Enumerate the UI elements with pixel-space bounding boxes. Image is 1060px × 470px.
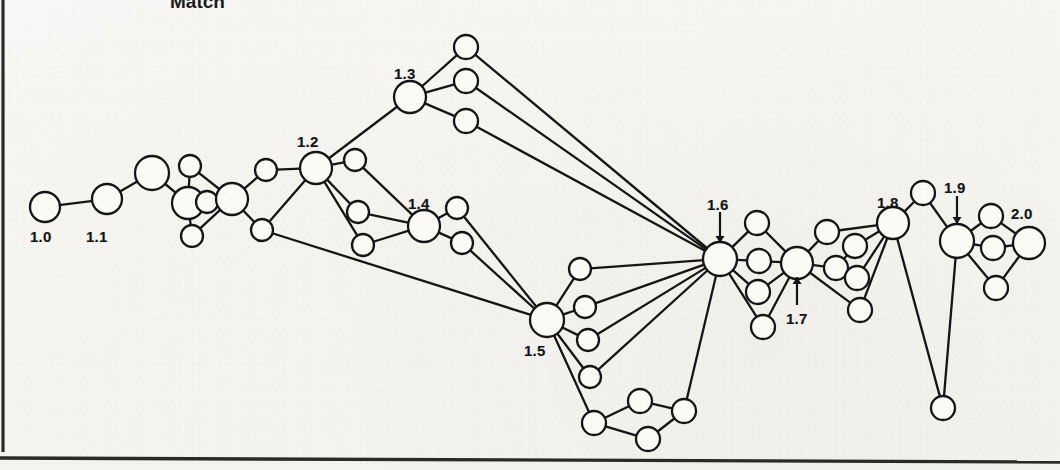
node-ac[interactable] [815, 220, 839, 244]
label-2-0: 2.0 [1011, 205, 1032, 222]
graph-edge [657, 418, 676, 432]
node-ai[interactable] [979, 204, 1003, 228]
node-1-4[interactable] [408, 210, 440, 242]
node-t[interactable] [579, 366, 601, 388]
node-1-0[interactable] [30, 192, 60, 222]
node-o[interactable] [446, 197, 468, 219]
node-g[interactable] [255, 159, 277, 181]
node-1-1[interactable] [92, 184, 122, 214]
diagram-page: Match 1.01.11.21.31.41.51.61.71.81.92.0 [0, 0, 1060, 470]
graph-edge [475, 87, 707, 250]
node-r[interactable] [574, 296, 596, 318]
node-af[interactable] [845, 266, 869, 290]
graph-edge [421, 54, 458, 87]
node-k[interactable] [352, 234, 374, 256]
label-1-4: 1.4 [408, 195, 429, 212]
node-aa[interactable] [746, 280, 770, 304]
horizontal-rule-bottom [0, 458, 1060, 462]
node-layer [30, 35, 1045, 451]
label-arrow-1-9 [953, 196, 962, 224]
node-q[interactable] [569, 258, 591, 280]
graph-edge [767, 272, 785, 285]
node-al[interactable] [931, 396, 955, 420]
label-1-6: 1.6 [707, 196, 728, 213]
node-x[interactable] [672, 399, 696, 423]
node-c[interactable] [179, 155, 201, 177]
node-p[interactable] [451, 232, 473, 254]
node-f[interactable] [216, 183, 248, 215]
node-1-8[interactable] [877, 207, 909, 239]
graph-edge [463, 216, 537, 308]
graph-edge [424, 103, 456, 117]
graph-edge [590, 260, 704, 268]
graph-edge [864, 231, 880, 241]
label-arrow-1-7 [793, 277, 802, 305]
node-1-7[interactable] [781, 247, 813, 279]
label-1-3: 1.3 [394, 65, 415, 82]
node-s[interactable] [577, 329, 599, 351]
node-d[interactable] [196, 191, 218, 213]
graph-edge [651, 403, 674, 408]
label-1-7: 1.7 [786, 310, 807, 327]
graph-edge [1000, 222, 1017, 234]
node-i[interactable] [344, 149, 366, 171]
node-1-6[interactable] [703, 242, 737, 276]
graph-edge [594, 264, 705, 303]
node-j[interactable] [347, 201, 369, 223]
graph-edge [243, 176, 258, 189]
graph-edge [276, 169, 301, 170]
node-n[interactable] [454, 109, 478, 133]
node-u[interactable] [582, 411, 606, 435]
node-1-3[interactable] [394, 81, 426, 113]
graph-edge [438, 232, 453, 239]
node-e[interactable] [181, 225, 203, 247]
graph-edge [605, 426, 638, 436]
arrow-head-icon [953, 217, 962, 224]
graph-edge [897, 237, 940, 397]
node-w[interactable] [636, 427, 660, 451]
graph-edge [970, 223, 982, 232]
graph-edge [362, 167, 413, 216]
node-1-2[interactable] [300, 152, 332, 184]
graph-edge [424, 84, 455, 93]
graph-edge [604, 406, 630, 419]
graph-edge [368, 214, 410, 223]
graph-edge [731, 231, 749, 248]
node-2-0[interactable] [1013, 227, 1045, 259]
graph-edge [687, 275, 717, 401]
node-a[interactable] [135, 156, 169, 190]
label-1-9: 1.9 [944, 179, 965, 196]
node-ag[interactable] [848, 298, 872, 322]
graph-edge [597, 267, 707, 334]
node-ah[interactable] [911, 181, 935, 205]
node-y[interactable] [745, 211, 769, 235]
node-1-5[interactable] [530, 303, 564, 337]
node-ae[interactable] [843, 234, 867, 258]
node-m[interactable] [454, 69, 478, 93]
node-l[interactable] [454, 35, 478, 59]
label-arrow-1-6 [716, 212, 725, 243]
graph-edge [476, 126, 706, 251]
label-1-8: 1.8 [877, 194, 898, 211]
graph-edge [838, 225, 878, 230]
graph-edge [597, 270, 708, 371]
graph-edge [807, 240, 819, 252]
node-v[interactable] [628, 389, 652, 413]
graph-edge [944, 257, 956, 397]
node-ak[interactable] [984, 276, 1008, 300]
label-1-1: 1.1 [86, 228, 107, 245]
node-z[interactable] [747, 249, 771, 273]
label-1-2: 1.2 [297, 133, 318, 150]
graph-edge [474, 54, 707, 249]
node-ab[interactable] [751, 315, 775, 339]
graph-edge [556, 277, 575, 306]
graph-edge [269, 179, 307, 222]
graph-edge [59, 201, 93, 205]
node-1-9[interactable] [940, 224, 974, 258]
graph-edge [198, 172, 220, 190]
label-1-5: 1.5 [524, 342, 545, 359]
node-aj[interactable] [981, 236, 1005, 260]
label-1-0: 1.0 [30, 228, 51, 245]
graph-edge [331, 162, 346, 165]
node-h[interactable] [251, 219, 273, 241]
